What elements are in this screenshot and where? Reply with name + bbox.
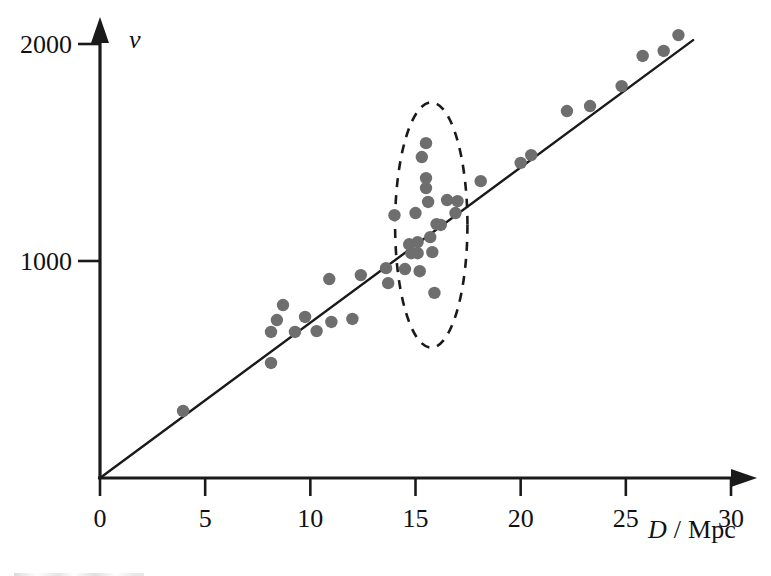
data-point: [310, 325, 322, 337]
data-point: [561, 105, 573, 117]
data-point: [323, 273, 335, 285]
x-axis-tick-labels: 051015202530: [94, 504, 745, 533]
data-point: [451, 195, 463, 207]
data-point: [265, 326, 277, 338]
y-axis-tick-labels: 10002000: [20, 30, 72, 276]
data-point: [299, 311, 311, 323]
scatter-points: [177, 29, 685, 417]
y-tick-label: 1000: [20, 247, 72, 276]
data-point: [265, 357, 277, 369]
x-axis-arrowhead: [731, 469, 757, 487]
data-point: [435, 219, 447, 231]
data-point: [420, 137, 432, 149]
data-point: [380, 262, 392, 274]
data-point: [355, 269, 367, 281]
data-point: [424, 231, 436, 243]
data-point: [636, 50, 648, 62]
y-tick-label: 2000: [20, 30, 72, 59]
hubble-diagram-figure: 10002000 051015202530 v D/Mpc: [0, 0, 771, 576]
data-point: [382, 277, 394, 289]
x-axis-symbol: D: [647, 515, 667, 544]
data-point: [411, 236, 423, 248]
y-axis-ticks: [78, 44, 100, 261]
x-axis-title: D/Mpc: [647, 515, 736, 544]
data-point: [615, 80, 627, 92]
x-tick-label: 10: [297, 504, 323, 533]
y-axis-title: v: [129, 25, 141, 54]
plot-axes: [91, 17, 757, 487]
data-point: [414, 265, 426, 277]
data-point: [672, 29, 684, 41]
x-tick-label: 0: [94, 504, 107, 533]
data-point: [346, 313, 358, 325]
data-point: [399, 263, 411, 275]
data-point: [289, 326, 301, 338]
data-point: [388, 209, 400, 221]
data-point: [420, 182, 432, 194]
data-point: [411, 247, 423, 259]
x-tick-label: 20: [508, 504, 534, 533]
x-axis-ticks: [100, 478, 731, 496]
x-tick-label: 15: [403, 504, 429, 533]
data-point: [441, 194, 453, 206]
data-point: [426, 246, 438, 258]
data-point: [514, 157, 526, 169]
data-point: [475, 175, 487, 187]
data-point: [422, 196, 434, 208]
data-point: [449, 207, 461, 219]
x-axis-unit: Mpc: [688, 515, 736, 544]
data-point: [525, 149, 537, 161]
data-point: [657, 45, 669, 57]
x-tick-label: 5: [199, 504, 212, 533]
data-point: [277, 299, 289, 311]
y-axis-arrowhead: [91, 17, 109, 43]
x-axis-separator: /: [674, 515, 682, 544]
x-tick-label: 25: [613, 504, 639, 533]
data-point: [325, 316, 337, 328]
data-point: [271, 314, 283, 326]
data-point: [409, 207, 421, 219]
data-point: [428, 287, 440, 299]
data-point: [416, 151, 428, 163]
data-point: [584, 100, 596, 112]
data-point: [177, 405, 189, 417]
